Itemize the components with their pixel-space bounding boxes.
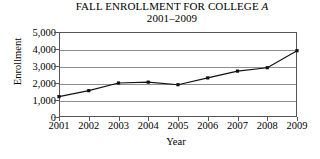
- chart-figure: FALL ENROLLMENT FOR COLLEGE A 2001–2009 …: [0, 0, 320, 159]
- x-tick-mark: [208, 117, 209, 121]
- gridline: [60, 67, 296, 68]
- y-tick-label: 1,000: [0, 95, 56, 106]
- y-tick-label: 3,000: [0, 61, 56, 72]
- y-tick-mark: [54, 32, 59, 33]
- x-tick-label: 2009: [277, 120, 317, 131]
- y-tick-mark: [54, 100, 59, 101]
- y-tick-mark: [54, 66, 59, 67]
- plot-area: [59, 32, 297, 117]
- x-tick-mark: [267, 117, 268, 121]
- y-tick-mark: [54, 83, 59, 84]
- gridline: [60, 50, 296, 51]
- x-tick-mark: [178, 117, 179, 121]
- y-tick-label: 5,000: [0, 27, 56, 38]
- x-tick-mark: [148, 117, 149, 121]
- gridline: [60, 101, 296, 102]
- y-tick-mark: [54, 49, 59, 50]
- x-tick-mark: [119, 117, 120, 121]
- chart-title-block: FALL ENROLLMENT FOR COLLEGE A 2001–2009: [0, 0, 320, 24]
- chart-title: FALL ENROLLMENT FOR COLLEGE A: [0, 0, 320, 12]
- x-tick-mark: [297, 117, 298, 121]
- x-tick-mark: [89, 117, 90, 121]
- chart-subtitle: 2001–2009: [0, 12, 320, 24]
- y-tick-label: 2,000: [0, 78, 56, 89]
- y-tick-label: 4,000: [0, 44, 56, 55]
- gridline: [60, 84, 296, 85]
- chart-title-college-letter: A: [262, 0, 269, 12]
- x-tick-mark: [59, 117, 60, 121]
- chart-title-text: FALL ENROLLMENT FOR COLLEGE: [76, 0, 262, 12]
- x-tick-mark: [238, 117, 239, 121]
- x-axis-label: Year: [56, 136, 296, 147]
